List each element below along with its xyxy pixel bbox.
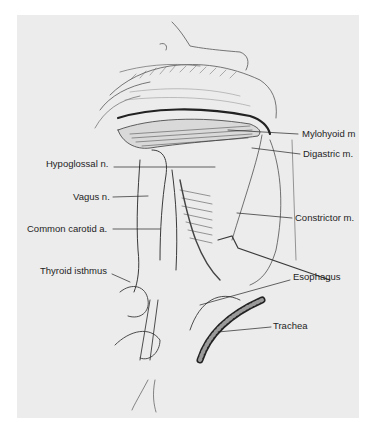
jaw-hatching bbox=[125, 65, 250, 106]
label-constrictor: Constrictor m. bbox=[295, 212, 354, 223]
trachea-tube bbox=[200, 300, 262, 360]
head-sketch bbox=[95, 22, 276, 128]
label-trachea: Trachea bbox=[273, 320, 308, 331]
label-common-carotid: Common carotid a. bbox=[27, 223, 107, 234]
label-esophagus: Esophagus bbox=[293, 271, 341, 282]
digastric-muscle bbox=[118, 119, 260, 148]
label-hypoglossal: Hypoglossal n. bbox=[46, 158, 108, 169]
constrictor-hatching bbox=[180, 180, 220, 280]
label-thyroid-isthmus: Thyroid isthmus bbox=[40, 265, 107, 276]
label-mylohyoid: Mylohyoid m bbox=[302, 128, 355, 139]
neck-sketch bbox=[134, 135, 296, 292]
label-vagus: Vagus n. bbox=[73, 191, 110, 202]
label-digastric: Digastric m. bbox=[303, 148, 353, 159]
hand-sketch bbox=[115, 286, 240, 412]
